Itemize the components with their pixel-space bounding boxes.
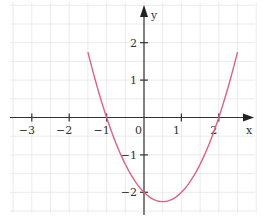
x-tick-label: −2 [56, 124, 72, 137]
x-axis-arrow-icon [243, 114, 254, 122]
y-tick-label: −2 [121, 186, 137, 199]
x-tick-label: −1 [93, 124, 109, 137]
x-tick-label: 0 [135, 124, 142, 137]
x-tick-label: −3 [19, 124, 35, 137]
y-axis-arrow-icon [140, 5, 148, 17]
grid [10, 2, 256, 213]
y-tick-label: 2 [130, 37, 137, 50]
x-tick-label: 1 [173, 124, 180, 137]
x-axis-label: x [246, 124, 253, 137]
y-tick-label: 1 [130, 74, 137, 87]
chart-canvas: −3−2−101221−1−2 x y [0, 0, 263, 217]
y-axis-label: y [150, 9, 158, 22]
